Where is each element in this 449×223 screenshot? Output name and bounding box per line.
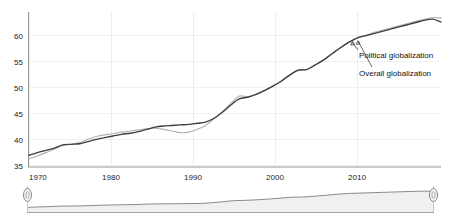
y-axis-tick-labels: 60 55 50 45 40 35 <box>14 32 23 171</box>
y-tick-label: 40 <box>14 136 23 145</box>
y-tick-label: 55 <box>14 58 23 67</box>
range-end-handle-grip[interactable] <box>430 189 438 202</box>
globalization-chart: 60 55 50 45 40 35 1970 1980 1990 2000 20… <box>0 0 449 223</box>
x-tick-label: 2000 <box>266 173 284 182</box>
annotation-label-overall: Overall globalization <box>359 69 431 78</box>
range-navigator[interactable] <box>24 186 438 213</box>
annotation-label-political: Political globalization <box>359 51 433 60</box>
x-axis-tick-labels: 1970 1980 1990 2000 2010 <box>29 173 366 182</box>
x-tick-label: 2010 <box>348 173 366 182</box>
y-tick-label: 35 <box>14 162 23 171</box>
series-line-political-globalization <box>29 18 441 159</box>
leader-line-political <box>352 42 358 50</box>
y-tick-label: 60 <box>14 32 23 41</box>
range-start-handle-grip[interactable] <box>24 189 32 202</box>
x-tick-label: 1970 <box>29 173 47 182</box>
chart-canvas: 60 55 50 45 40 35 1970 1980 1990 2000 20… <box>0 0 449 223</box>
y-tick-label: 45 <box>14 110 23 119</box>
navigator-area-fill <box>28 191 433 212</box>
y-tick-label: 50 <box>14 84 23 93</box>
x-tick-label: 1990 <box>184 173 202 182</box>
x-tick-label: 1980 <box>102 173 120 182</box>
arrow-head-overall <box>356 41 360 44</box>
